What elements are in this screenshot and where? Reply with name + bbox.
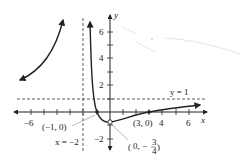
point-label-neg1-0: (−1, 0) [42, 122, 67, 132]
svg-text:): ) [157, 142, 160, 152]
y-tick-label-neg2: −2 [94, 134, 104, 144]
point-0-neg3-4 [108, 120, 112, 124]
leader-neg1 [72, 115, 95, 126]
x-tick-label-4: 4 [159, 118, 164, 128]
y-tick-label-4: 4 [99, 53, 104, 63]
right-branch-curve [90, 22, 200, 122]
x-tick-label-neg6: −6 [24, 118, 34, 128]
rational-function-graph: y x −6 4 6 6 4 2 −2 y = 1 x = −2 (−1, 0)… [0, 0, 245, 167]
point-label-0-neg3-4: ( 0, − 3 4 ) [128, 137, 160, 156]
x-tick-label-6: 6 [186, 118, 191, 128]
svg-text:0, −: 0, − [133, 141, 147, 151]
svg-text:(: ( [128, 142, 131, 152]
point-label-3-0: (3, 0) [133, 118, 153, 128]
scan-artifacts [122, 27, 240, 54]
x-axis-label: x [200, 115, 205, 125]
horizontal-asymptote-label: y = 1 [170, 87, 189, 97]
vertical-asymptote-label: x = −2 [55, 137, 79, 147]
left-branch-curve [20, 20, 63, 80]
y-tick-label-6: 6 [99, 27, 104, 37]
y-axis-label: y [113, 10, 118, 20]
leader-0 [111, 124, 128, 140]
point-neg1-0 [95, 110, 99, 114]
point-3-0 [147, 110, 151, 114]
y-tick-label-2: 2 [99, 80, 104, 90]
